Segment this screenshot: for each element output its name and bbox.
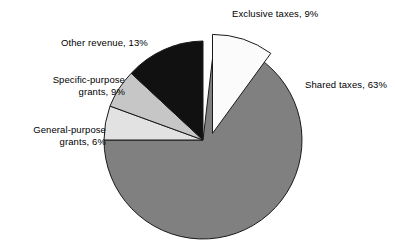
pie-chart-figure: Exclusive taxes, 9% Shared taxes, 63% Ot… [0, 0, 395, 243]
pie-label-other-revenue: Other revenue, 13% [61, 37, 174, 49]
pie-label-exclusive-taxes: Exclusive taxes, 9% [232, 8, 318, 20]
pie-chart-canvas [0, 0, 395, 243]
pie-label-specific-purpose-grants: Specific-purpose grants, 9% [23, 74, 125, 98]
pie-label-general-purpose-grants: General-purpose grants, 6% [5, 124, 106, 148]
pie-label-shared-taxes: Shared taxes, 63% [305, 79, 387, 91]
